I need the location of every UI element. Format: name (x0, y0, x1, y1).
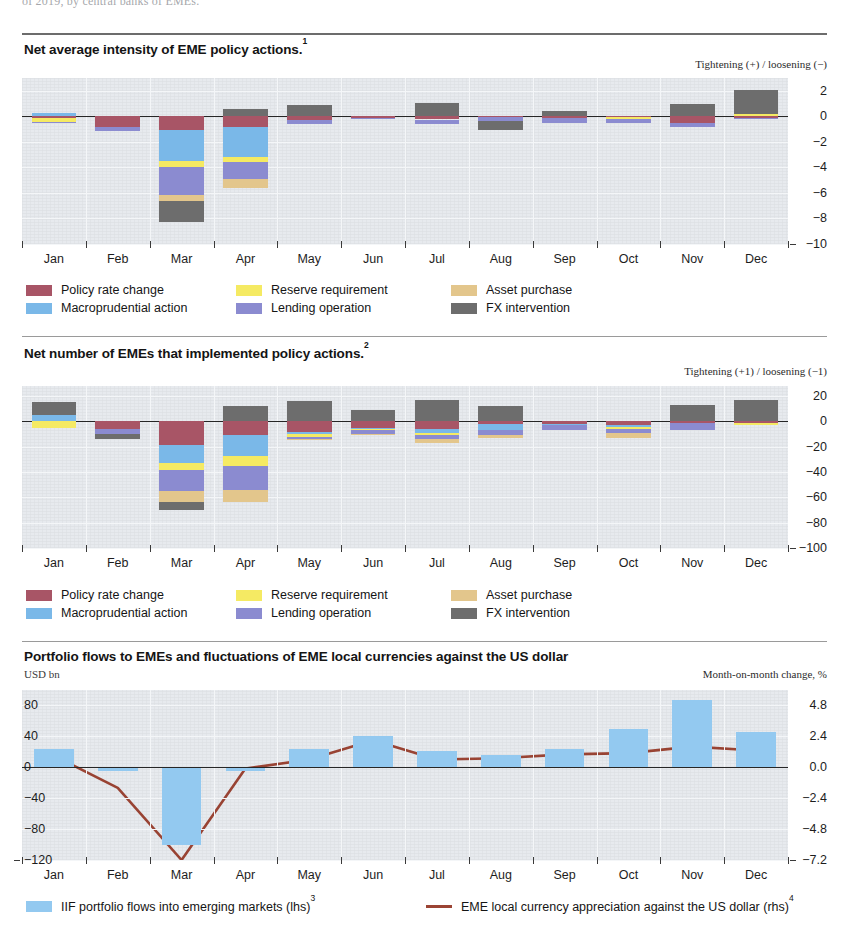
bar-segment (32, 122, 77, 123)
x-axis-label: May (297, 252, 321, 266)
grid-line-horizontal (22, 167, 788, 168)
panel1-plot-area (22, 78, 788, 244)
x-axis-tick (214, 857, 215, 864)
bar-segment (223, 490, 268, 503)
y-axis-tick-mark (790, 548, 796, 549)
x-axis-label: Apr (236, 556, 255, 570)
legend-item[interactable]: Lending operation (236, 606, 451, 620)
x-axis-tick (341, 241, 342, 248)
x-axis-tick (405, 241, 406, 248)
legend-footnote: 3 (310, 893, 315, 903)
x-axis-label: Aug (490, 252, 512, 266)
x-axis-label: Mar (171, 252, 193, 266)
x-axis-tick (150, 857, 151, 864)
legend-item[interactable]: Lending operation (236, 301, 451, 315)
grid-line-vertical (150, 690, 151, 860)
grid-line-vertical (341, 690, 342, 860)
legend-swatch-icon (26, 590, 52, 601)
panel2-title-footnote: 2 (364, 340, 369, 350)
bar-segment (159, 445, 204, 463)
x-axis-label: Jul (429, 868, 445, 882)
grid-line-vertical (214, 386, 215, 548)
bar-segment (415, 400, 460, 422)
bar-segment (542, 111, 587, 116)
legend-item[interactable]: FX intervention (451, 301, 666, 315)
x-axis-tick (660, 241, 661, 248)
bar-segment (223, 456, 268, 466)
bar-segment (95, 127, 140, 131)
legend-row: Policy rate changeReserve requirementAss… (26, 588, 666, 602)
legend-item[interactable]: Policy rate change (26, 283, 236, 297)
y-axis-label-left: 0 (24, 760, 31, 774)
x-axis-label: Nov (681, 556, 703, 570)
x-axis-label: Dec (745, 556, 767, 570)
bar-segment (159, 201, 204, 222)
bar-segment (223, 406, 268, 421)
grid-line-vertical (597, 690, 598, 860)
bar-segment (351, 434, 396, 435)
legend-item[interactable]: Policy rate change (26, 588, 236, 602)
grid-line-horizontal (22, 497, 788, 498)
y-axis-label: −40 (806, 465, 827, 479)
panel1-title-text: Net average intensity of EME policy acti… (24, 42, 302, 57)
legend-item[interactable]: FX intervention (451, 606, 666, 620)
bar-segment (734, 118, 779, 119)
legend-swatch-icon (26, 901, 52, 912)
grid-line-horizontal (22, 447, 788, 448)
bar-segment (159, 116, 204, 130)
grid-line-vertical (469, 690, 470, 860)
bar-segment (734, 423, 779, 426)
legend-line-icon (426, 905, 452, 908)
bar-segment (223, 162, 268, 179)
legend-item[interactable]: Asset purchase (451, 588, 666, 602)
bar-segment (415, 439, 460, 443)
legend-item[interactable]: Reserve requirement (236, 283, 451, 297)
x-axis-label: Dec (745, 868, 767, 882)
x-axis-label: Nov (681, 868, 703, 882)
bar-segment (415, 120, 460, 124)
panel3-right-axis-label: Month-on-month change, % (703, 668, 827, 680)
bar-portfolio-flow (353, 736, 393, 767)
legend-item[interactable]: EME local currency appreciation against … (426, 898, 846, 914)
legend-label: Reserve requirement (271, 588, 388, 602)
x-axis-tick (86, 241, 87, 248)
x-axis-label: Sep (553, 868, 575, 882)
legend-item[interactable]: IIF portfolio flows into emerging market… (26, 898, 426, 914)
grid-line-vertical (405, 386, 406, 548)
bar-segment (223, 127, 268, 158)
y-axis-label: 0 (820, 414, 827, 428)
y-axis-label: −10 (806, 237, 827, 251)
x-axis-tick (788, 857, 789, 864)
x-axis-tick (660, 857, 661, 864)
x-axis-label: Jul (429, 556, 445, 570)
x-axis-tick (469, 857, 470, 864)
x-axis-label: Jun (363, 252, 383, 266)
panel2-title-text: Net number of EMEs that implemented poli… (24, 346, 364, 361)
panel1-axis-note: Tightening (+) / loosening (−) (695, 58, 827, 70)
bar-segment (670, 104, 715, 117)
x-axis-tick (150, 241, 151, 248)
panel2-title: Net number of EMEs that implemented poli… (24, 344, 369, 361)
y-axis-label-right: −4.8 (802, 822, 827, 836)
legend-label: Macroprudential action (61, 301, 187, 315)
cut-off-text-line: of 2019, by central banks of EMEs. (22, 0, 442, 8)
legend-item[interactable]: Macroprudential action (26, 301, 236, 315)
x-axis-tick (788, 545, 789, 552)
bar-segment (32, 421, 77, 427)
bar-segment (415, 421, 460, 429)
x-axis-label: Dec (745, 252, 767, 266)
legend-item[interactable]: Asset purchase (451, 283, 666, 297)
bar-segment (287, 120, 332, 124)
legend-label: Reserve requirement (271, 283, 388, 297)
grid-line-vertical (533, 690, 534, 860)
legend-label: Lending operation (271, 606, 371, 620)
legend-label: Macroprudential action (61, 606, 187, 620)
bar-segment (670, 405, 715, 421)
x-axis-tick (597, 857, 598, 864)
bar-segment (734, 90, 779, 114)
x-axis-tick (469, 545, 470, 552)
legend-item[interactable]: Reserve requirement (236, 588, 451, 602)
x-axis-label: Jun (363, 556, 383, 570)
legend-item[interactable]: Macroprudential action (26, 606, 236, 620)
panel1-title: Net average intensity of EME policy acti… (24, 40, 307, 57)
